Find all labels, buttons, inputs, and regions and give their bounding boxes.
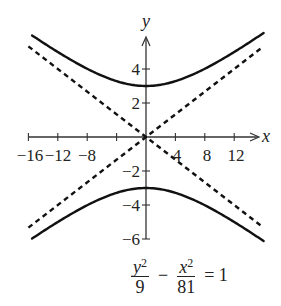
exponent: 2 — [141, 256, 147, 270]
tick-labels: xy−16−12−8481242−2−4−6 — [17, 11, 270, 249]
y-tick-label: −2 — [122, 162, 140, 181]
x-tick-label: 4 — [173, 146, 182, 165]
denominator-9: 9 — [136, 277, 145, 297]
exponent: 2 — [187, 256, 193, 270]
fraction-y2-over-9: y2 9 — [131, 254, 149, 297]
minus-operator: − — [158, 265, 168, 286]
denominator-81: 81 — [177, 277, 195, 297]
x-tick-label: −12 — [45, 146, 72, 165]
y-axis-label: y — [140, 11, 150, 31]
numerator-var-x: x — [179, 257, 187, 277]
y-tick-label: 4 — [132, 60, 141, 79]
equation-label: y2 9 − x2 81 = 1 — [129, 254, 235, 297]
numerator-var-y: y — [133, 257, 141, 277]
x-tick-label: −8 — [78, 146, 96, 165]
x-tick-label: 8 — [203, 146, 212, 165]
x-axis-label: x — [261, 126, 270, 146]
y-tick-label: −4 — [122, 196, 141, 215]
fraction-x2-over-81: x2 81 — [177, 254, 195, 297]
x-tick-label: −16 — [17, 146, 44, 165]
y-tick-label: −6 — [122, 230, 140, 249]
equals-one: = 1 — [204, 265, 228, 286]
y-tick-label: 2 — [132, 94, 141, 113]
x-tick-label: 12 — [228, 146, 245, 165]
hyperbola-lower-branch — [32, 188, 264, 241]
